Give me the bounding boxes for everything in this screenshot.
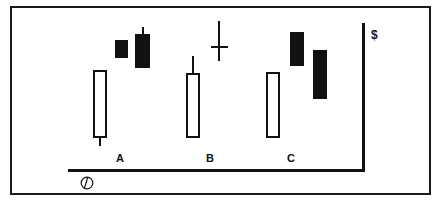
- candle-body-c-white-long: [266, 72, 280, 138]
- candle-wick-b-doji: [218, 21, 220, 61]
- candlestick-plot: $ A B C: [0, 0, 436, 209]
- group-label-c: C: [281, 152, 301, 164]
- candle-body-c-black-lower: [313, 50, 327, 99]
- clock-icon: [80, 176, 94, 190]
- y-axis-label: $: [371, 29, 378, 41]
- group-label-b: B: [200, 152, 220, 164]
- candle-body-a-black-long: [135, 34, 150, 68]
- x-axis-line: [68, 169, 365, 172]
- group-label-a: A: [110, 152, 130, 164]
- y-axis-line: [362, 23, 365, 172]
- candle-body-b-white-long: [186, 73, 200, 138]
- candle-body-c-black-upper: [290, 32, 304, 66]
- candle-body-a-white-long: [93, 70, 107, 138]
- figure-canvas: $ A B C: [0, 0, 436, 209]
- candle-body-a-black-small: [115, 40, 128, 58]
- candle-body-b-doji-crossbar: [211, 46, 228, 48]
